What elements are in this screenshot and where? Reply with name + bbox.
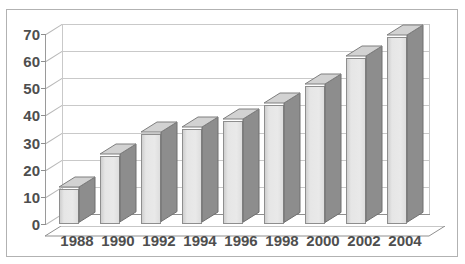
x-axis-tick-label: 2002 xyxy=(347,232,380,249)
backwall-right-edge xyxy=(429,24,430,214)
x-axis-tick-label: 1994 xyxy=(183,232,216,249)
bar-chart: 010203040506070 198819901992199419961998… xyxy=(7,10,459,258)
bar-3d-faces xyxy=(223,109,261,224)
x-axis-tick-label: 1992 xyxy=(142,232,175,249)
x-axis-tick-label: 1990 xyxy=(101,232,134,249)
gridline xyxy=(62,24,430,25)
bar-side-face xyxy=(243,109,259,222)
chart-screenshot: 010203040506070 198819901992199419961998… xyxy=(0,0,465,264)
bar-side-face xyxy=(284,93,300,222)
x-axis-tick-label: 1988 xyxy=(60,232,93,249)
bar-3d-faces xyxy=(387,25,425,224)
x-axis-tick-label: 1998 xyxy=(265,232,298,249)
bar[interactable] xyxy=(141,134,161,224)
x-axis-tick-label: 2000 xyxy=(306,232,339,249)
y-axis-tick-label: 0 xyxy=(32,216,40,233)
y-axis-tick-label: 30 xyxy=(23,134,40,151)
bar-side-face xyxy=(407,25,423,222)
y-axis-labels: 010203040506070 xyxy=(7,34,40,224)
clipped-title-strip xyxy=(0,0,465,9)
bar-3d-faces xyxy=(182,117,220,224)
bar-series xyxy=(45,34,429,224)
bar-3d-faces xyxy=(264,93,302,224)
bar-side-face xyxy=(325,74,341,222)
bar[interactable] xyxy=(59,189,79,224)
bar-side-face xyxy=(202,117,218,222)
y-axis-tick-label: 40 xyxy=(23,107,40,124)
bar-side-face xyxy=(161,122,177,222)
bar-side-face xyxy=(120,144,136,222)
bar-3d-faces xyxy=(346,46,384,224)
chart-frame: 010203040506070 198819901992199419961998… xyxy=(6,9,458,257)
y-axis-tick-label: 50 xyxy=(23,80,40,97)
bar[interactable] xyxy=(223,121,243,224)
y-axis-tick-label: 10 xyxy=(23,188,40,205)
bar-3d-faces xyxy=(100,144,138,224)
bar[interactable] xyxy=(305,86,325,224)
x-axis-labels: 198819901992199419961998200020022004 xyxy=(45,232,445,256)
bar[interactable] xyxy=(264,105,284,224)
bar-3d-faces xyxy=(59,177,97,224)
bar[interactable] xyxy=(182,129,202,224)
y-axis-tick-label: 60 xyxy=(23,53,40,70)
bar[interactable] xyxy=(346,58,366,224)
x-axis-tick-label: 2004 xyxy=(388,232,421,249)
y-axis-tick-label: 20 xyxy=(23,161,40,178)
bar-side-face xyxy=(366,46,382,222)
bar[interactable] xyxy=(387,37,407,224)
y-axis-tick-label: 70 xyxy=(23,26,40,43)
x-axis-tick-label: 1996 xyxy=(224,232,257,249)
bar-3d-faces xyxy=(141,122,179,224)
bar[interactable] xyxy=(100,156,120,224)
bar-3d-faces xyxy=(305,74,343,224)
